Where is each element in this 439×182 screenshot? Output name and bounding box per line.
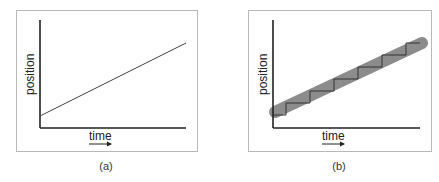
panel-a-caption: (a) [86,160,126,172]
panel-a-ylabel: position [23,54,37,95]
panel-b-caption: (b) [319,160,359,172]
figure-canvas: position time position time [0,0,439,182]
panel-a-xlabel: time [89,129,112,143]
panel-b-xlabel: time [322,129,345,143]
panel-b-gray-band [275,43,422,112]
panel-a-linear-trace [40,43,186,116]
panel-b-ylabel: position [256,54,270,95]
panel-b-plot: position time [256,20,422,147]
panel-a-plot: position time [23,20,186,147]
